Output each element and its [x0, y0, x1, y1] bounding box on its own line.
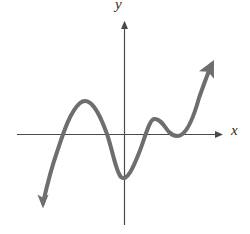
- x-axis-label: x: [231, 123, 238, 138]
- y-axis-label: y: [115, 0, 122, 12]
- math-graph-figure: y x: [0, 0, 250, 234]
- graph-canvas: [0, 0, 250, 234]
- polynomial-curve: [43, 64, 212, 203]
